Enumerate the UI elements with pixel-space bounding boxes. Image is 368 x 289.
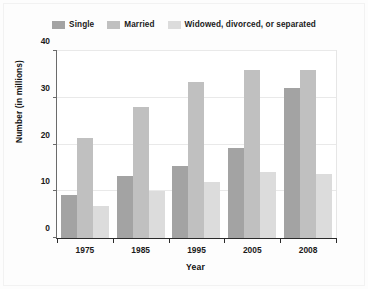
x-tick-label: 1995 [187, 245, 206, 255]
bar[interactable] [316, 174, 332, 238]
legend-item-widowed: Widowed, divorced, or separated [168, 20, 316, 29]
bar[interactable] [300, 70, 316, 238]
x-tick-mark [336, 238, 337, 243]
bar[interactable] [61, 195, 77, 238]
bar[interactable] [93, 206, 109, 238]
bar[interactable] [204, 182, 220, 238]
legend-label-widowed: Widowed, divorced, or separated [185, 20, 316, 29]
bar[interactable] [228, 148, 244, 238]
x-tick-label: 1985 [131, 245, 150, 255]
bar-group: 2008 [280, 51, 336, 238]
bar-chart-figure: Single Married Widowed, divorced, or sep… [0, 0, 368, 289]
y-tick-label: 30 [41, 83, 50, 93]
bar[interactable] [260, 172, 276, 238]
y-tick-label: 40 [41, 36, 50, 46]
bar-group: 2005 [224, 51, 280, 238]
x-tick-label: 2005 [243, 245, 262, 255]
y-tick-label: 20 [41, 130, 50, 140]
legend-label-married: Married [124, 20, 154, 29]
legend-swatch-widowed-icon [168, 21, 181, 29]
plot-area: 010203040 19751985199520052008 [56, 50, 337, 239]
bar[interactable] [77, 138, 93, 239]
x-tick-mark [113, 238, 114, 243]
x-tick-label: 2008 [299, 245, 318, 255]
bar[interactable] [188, 82, 204, 238]
y-axis-label: Number (in millions) [14, 60, 24, 143]
legend-item-single: Single [52, 20, 94, 29]
legend-swatch-married-icon [107, 21, 120, 29]
legend-item-married: Married [107, 20, 154, 29]
bar-group: 1975 [57, 51, 113, 238]
bar[interactable] [133, 107, 149, 238]
bar-groups: 19751985199520052008 [57, 51, 336, 238]
bar[interactable] [244, 70, 260, 238]
x-tick-mark [169, 238, 170, 243]
x-axis-label: Year [56, 262, 335, 272]
legend-label-single: Single [69, 20, 94, 29]
bar[interactable] [149, 191, 165, 238]
y-tick-label: 0 [45, 223, 50, 233]
bar[interactable] [172, 166, 188, 238]
legend-swatch-single-icon [52, 21, 65, 29]
bar-group: 1995 [169, 51, 225, 238]
x-tick-mark [57, 238, 58, 243]
bar[interactable] [117, 176, 133, 238]
bar-group: 1985 [113, 51, 169, 238]
x-tick-mark [280, 238, 281, 243]
x-tick-mark [224, 238, 225, 243]
y-tick-label: 10 [41, 176, 50, 186]
chart-legend: Single Married Widowed, divorced, or sep… [0, 20, 368, 29]
bar[interactable] [284, 88, 300, 238]
x-tick-label: 1975 [76, 245, 95, 255]
